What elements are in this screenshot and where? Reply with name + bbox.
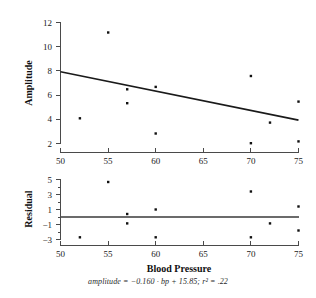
amplitude-xticklabel: 75 [294,156,304,166]
amplitude-y-ticks [56,23,61,144]
amplitude-y-ticklabels: 12 10 8 6 4 2 [43,18,53,149]
data-point [126,102,128,104]
residual-axis-title: Residual [23,190,34,227]
residual-xticklabel: 70 [246,249,256,259]
data-point [126,213,128,215]
amplitude-panel: 12 10 8 6 4 2 50 55 60 65 [23,18,304,166]
data-point [269,222,271,224]
residual-yticklabel: 1 [48,205,53,215]
data-point [250,142,252,144]
residual-xticklabel: 50 [56,249,66,259]
data-point [297,205,299,207]
residual-x-ticks [61,241,299,246]
data-point [155,132,157,134]
residual-xticklabel: 55 [104,249,114,259]
amplitude-xticklabel: 55 [104,156,114,166]
residual-yticklabel: −3 [42,235,52,245]
residual-yticklabel: 3 [48,190,53,200]
data-point [107,31,109,33]
data-point [297,100,299,102]
blood-pressure-axis-title: Blood Pressure [147,263,212,274]
data-point [79,236,81,238]
residual-panel: 5 3 1 −1 −3 50 55 60 65 70 [23,175,304,274]
data-point [250,190,252,192]
residual-xticklabel: 75 [294,249,304,259]
amplitude-data-points [79,31,300,144]
residual-data-points [79,181,300,239]
data-point [155,236,157,238]
data-point [107,181,109,183]
amplitude-yticklabel: 6 [48,90,53,100]
amplitude-xticklabel: 60 [151,156,161,166]
residual-y-ticks [56,180,61,240]
amplitude-xticklabel: 65 [199,156,209,166]
amplitude-axis-title: Amplitude [23,60,34,106]
regression-equation-caption: amplitude = −0.160 · bp + 15.85; r² = .2… [0,277,316,286]
amplitude-regression-line [61,72,299,120]
amplitude-yticklabel: 2 [48,139,53,149]
regression-figure: 12 10 8 6 4 2 50 55 60 65 [0,0,316,298]
data-point [126,88,128,90]
data-point [126,222,128,224]
residual-y-ticklabels: 5 3 1 −1 −3 [42,175,52,245]
residual-yticklabel: −1 [42,220,52,230]
amplitude-yticklabel: 12 [43,18,52,28]
scatter-plots-svg: 12 10 8 6 4 2 50 55 60 65 [0,0,316,278]
amplitude-yticklabel: 10 [43,42,53,52]
data-point [250,75,252,77]
data-point [297,140,299,142]
residual-xticklabel: 60 [151,249,161,259]
data-point [250,236,252,238]
amplitude-yticklabel: 8 [48,66,53,76]
data-point [269,121,271,123]
data-point [155,208,157,210]
data-point [155,86,157,88]
amplitude-xticklabel: 70 [246,156,256,166]
amplitude-yticklabel: 4 [48,114,53,124]
amplitude-x-ticklabels: 50 55 60 65 70 75 [56,156,304,166]
residual-x-ticklabels: 50 55 60 65 70 75 [56,249,304,259]
amplitude-xticklabel: 50 [56,156,66,166]
residual-xticklabel: 65 [199,249,209,259]
data-point [79,117,81,119]
data-point [297,229,299,231]
amplitude-x-ticks [61,148,299,153]
residual-yticklabel: 5 [48,175,53,185]
